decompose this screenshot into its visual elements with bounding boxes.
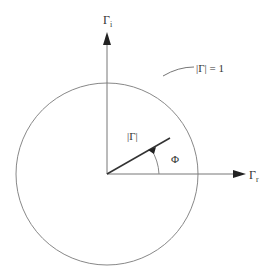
real-axis-arrowhead-icon [233, 170, 246, 178]
angle-label: Φ [171, 153, 179, 165]
imaginary-axis-label: Γi [103, 13, 113, 29]
gamma-vector [107, 138, 170, 174]
imaginary-axis-arrowhead-icon [103, 32, 111, 45]
reflection-coefficient-diagram: Γi Γr |Γ| = 1 |Γ| Φ [0, 0, 272, 278]
circle-label-leader [163, 67, 194, 76]
unit-circle-label: |Γ| = 1 [196, 62, 224, 74]
real-axis-label: Γr [249, 168, 259, 184]
magnitude-label: |Γ| [127, 130, 138, 142]
